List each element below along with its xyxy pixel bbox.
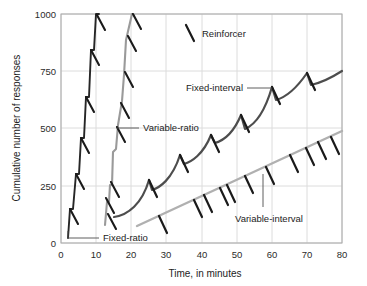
cumulative-response-chart: 1000 750 500 250 0 0 10 20 30 40 50 60 7… (0, 0, 367, 286)
x-tick-20: 20 (126, 249, 137, 260)
y-tick-500: 500 (40, 123, 56, 134)
y-tick-750: 750 (40, 66, 56, 77)
x-tick-70: 70 (302, 249, 313, 260)
label-variable-ratio: Variable-ratio (143, 122, 199, 133)
x-tick-80: 80 (337, 249, 348, 260)
x-tick-10: 10 (91, 249, 102, 260)
label-variable-interval: Variable-interval (235, 213, 303, 224)
x-tick-50: 50 (232, 249, 243, 260)
x-tick-30: 30 (161, 249, 172, 260)
x-tick-40: 40 (197, 249, 208, 260)
y-tick-0: 0 (51, 238, 56, 249)
y-tick-1000: 1000 (35, 9, 56, 20)
x-tick-0: 0 (58, 249, 63, 260)
legend-reinforcer-label: Reinforcer (202, 28, 246, 39)
chart-svg: 1000 750 500 250 0 0 10 20 30 40 50 60 7… (0, 0, 367, 286)
label-fixed-ratio: Fixed-ratio (103, 232, 148, 243)
y-axis-title: Cumulative number of responses (11, 55, 22, 202)
x-tick-60: 60 (267, 249, 278, 260)
y-tick-250: 250 (40, 181, 56, 192)
x-axis-title: Time, in minutes (169, 268, 242, 279)
label-fixed-interval: Fixed-interval (186, 82, 243, 93)
